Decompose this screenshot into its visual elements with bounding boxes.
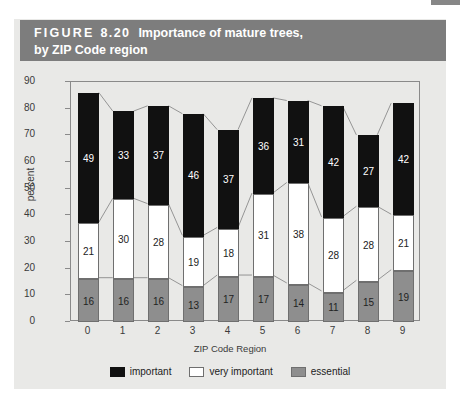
bar-segment-important: 42	[393, 103, 414, 215]
bar-segment-value: 38	[289, 230, 308, 240]
x-tick-label: 5	[248, 325, 278, 336]
legend-item-important[interactable]: important	[110, 366, 172, 377]
bar-segment-value: 16	[79, 297, 98, 307]
bar-segment-value: 37	[149, 151, 168, 161]
y-tick-label: 10	[9, 288, 35, 299]
figure-title-bar: FIGURE8.20Importance of mature trees, by…	[20, 20, 446, 61]
bar-segment-value: 17	[254, 295, 273, 305]
y-tick-label: 80	[9, 102, 35, 113]
bar-segment-important: 27	[358, 135, 379, 207]
y-tick-mark	[65, 321, 70, 322]
x-tick-label: 1	[108, 325, 138, 336]
bar-segment-essential: 16	[113, 279, 134, 322]
figure-title-line-1: FIGURE8.20Importance of mature trees,	[34, 25, 446, 42]
plot-inner: 1621491630331628371319461718371731361438…	[71, 82, 419, 320]
bar-segment-value: 28	[324, 251, 343, 261]
legend-label: very important	[209, 366, 272, 377]
bar-segment-important: 42	[323, 106, 344, 218]
bar-segment-essential: 16	[78, 279, 99, 322]
x-tick-label: 2	[143, 325, 173, 336]
bar-segment-very-important: 30	[113, 199, 134, 279]
x-axis-title: ZIP Code Region	[14, 343, 446, 354]
bar-segment-important: 37	[148, 106, 169, 205]
x-tick-label: 0	[73, 325, 103, 336]
y-tick-label: 0	[9, 315, 35, 326]
figure-label: FIGURE	[34, 26, 94, 40]
bar-segment-value: 15	[359, 298, 378, 308]
bar-segment-important: 46	[183, 114, 204, 237]
x-tick-label: 7	[318, 325, 348, 336]
bar-segment-very-important: 38	[288, 183, 309, 284]
bar-segment-value: 13	[184, 301, 203, 311]
bar-segment-value: 30	[114, 235, 133, 245]
bar-segment-value: 33	[114, 151, 133, 161]
bar-segment-very-important: 28	[323, 218, 344, 293]
bar-segment-important: 33	[113, 111, 134, 199]
x-tick-label: 3	[178, 325, 208, 336]
legend-swatch-icon	[110, 367, 125, 377]
x-tick-label: 9	[388, 325, 418, 336]
legend-item-essential[interactable]: essential	[291, 366, 350, 377]
bar-segment-very-important: 28	[148, 205, 169, 280]
bar-segment-value: 21	[394, 239, 413, 249]
bar-segment-essential: 19	[393, 271, 414, 322]
bar-segment-value: 16	[114, 297, 133, 307]
bar-segment-value: 36	[254, 142, 273, 152]
figure-panel: FIGURE8.20Importance of mature trees, by…	[14, 19, 446, 389]
bar-segment-very-important: 28	[358, 207, 379, 282]
bar-segment-value: 21	[79, 247, 98, 257]
bar-segment-value: 46	[184, 171, 203, 181]
page-edge-marker	[431, 0, 460, 5]
bar-segment-important: 49	[78, 93, 99, 224]
bar-segment-value: 17	[219, 295, 238, 305]
bar-segment-value: 49	[79, 154, 98, 164]
bar-segment-value: 18	[219, 249, 238, 259]
bar-segment-value: 19	[394, 293, 413, 303]
bar-segment-value: 16	[149, 297, 168, 307]
bar-segment-essential: 16	[148, 279, 169, 322]
legend-label: important	[130, 366, 172, 377]
x-tick-label: 4	[213, 325, 243, 336]
figure-number: 8.20	[100, 26, 130, 40]
chart-area: percent 0102030405060708090 162149163033…	[14, 67, 446, 389]
bar-segment-very-important: 19	[183, 237, 204, 288]
bar-segment-value: 31	[254, 231, 273, 241]
bar-segment-essential: 15	[358, 282, 379, 322]
legend-label: essential	[311, 366, 350, 377]
bar-segment-value: 27	[359, 167, 378, 177]
bar-segment-value: 11	[324, 303, 343, 313]
bar-segment-value: 28	[359, 241, 378, 251]
y-tick-label: 50	[9, 182, 35, 193]
bar-segment-value: 28	[149, 238, 168, 248]
y-tick-label: 30	[9, 235, 35, 246]
bar-segment-essential: 11	[323, 293, 344, 322]
x-tick-label: 8	[353, 325, 383, 336]
bar-segment-very-important: 21	[393, 215, 414, 271]
bar-segment-essential: 14	[288, 285, 309, 322]
bar-segment-essential: 13	[183, 287, 204, 322]
legend-swatch-icon	[189, 367, 204, 377]
bar-segment-value: 42	[324, 158, 343, 168]
y-tick-label: 90	[9, 75, 35, 86]
bar-segment-value: 14	[289, 299, 308, 309]
y-tick-label: 40	[9, 208, 35, 219]
bar-segment-essential: 17	[253, 277, 274, 322]
legend-item-very[interactable]: very important	[189, 366, 272, 377]
bar-segment-essential: 17	[218, 277, 239, 322]
bar-segment-value: 31	[289, 138, 308, 148]
legend-swatch-icon	[291, 367, 306, 377]
bar-segment-important: 36	[253, 98, 274, 194]
y-tick-label: 20	[9, 262, 35, 273]
bar-segment-very-important: 21	[78, 223, 99, 279]
bar-segment-very-important: 31	[253, 194, 274, 277]
bar-segment-important: 37	[218, 130, 239, 229]
plot-frame: 1621491630331628371319461718371731361438…	[70, 81, 420, 321]
y-tick-label: 60	[9, 155, 35, 166]
bar-segment-very-important: 18	[218, 229, 239, 277]
y-tick-label: 70	[9, 128, 35, 139]
bar-segment-value: 37	[219, 175, 238, 185]
figure-title-text: Importance of mature trees,	[138, 26, 303, 40]
x-tick-label: 6	[283, 325, 313, 336]
chart-legend: importantvery importantessential	[14, 366, 446, 377]
figure-title-line-2: by ZIP Code region	[34, 42, 446, 59]
